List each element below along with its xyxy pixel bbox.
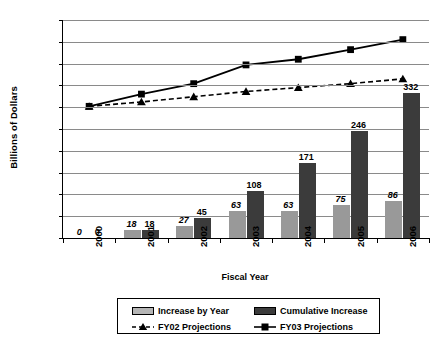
marker-square xyxy=(295,56,302,63)
bar-value-label: 171 xyxy=(292,152,321,162)
bar-cumulative-increase xyxy=(403,93,420,238)
bar-value-label: 246 xyxy=(344,120,373,130)
bar-value-label: 108 xyxy=(240,180,269,190)
y-gridline xyxy=(63,20,429,21)
x-tick-label: 2003 xyxy=(250,226,261,247)
x-tick-label: 2004 xyxy=(302,226,313,247)
y-axis-title: Billions of Dollars xyxy=(8,68,19,188)
bar-value-label: 86 xyxy=(378,190,407,200)
marker-square xyxy=(138,91,145,98)
y-tick-mark xyxy=(59,173,63,174)
x-tick-mark xyxy=(63,238,64,243)
marker-triangle xyxy=(398,75,407,83)
y-tick-mark xyxy=(59,151,63,152)
bar-value-label: 18 xyxy=(135,219,164,229)
legend-swatch-light-bar xyxy=(132,307,154,315)
y-gridline xyxy=(63,107,429,108)
bar-increase-by-year xyxy=(229,211,246,238)
bar-value-label: 45 xyxy=(187,207,216,217)
legend-item-fy03-projections: FY03 Projections xyxy=(254,318,353,336)
legend-item-fy02-projections: FY02 Projections xyxy=(132,318,254,336)
x-tick-mark xyxy=(115,238,116,243)
x-tick-mark xyxy=(324,238,325,243)
bar-value-label: 0 xyxy=(83,227,112,237)
y-gridline xyxy=(63,129,429,130)
bar-increase-by-year xyxy=(176,226,193,238)
bar-increase-by-year xyxy=(281,211,298,238)
legend-label-fy03-projections: FY03 Projections xyxy=(280,322,353,332)
y-gridline xyxy=(63,85,429,86)
x-tick-mark xyxy=(220,238,221,243)
y-gridline xyxy=(63,42,429,43)
x-axis-title: Fiscal Year xyxy=(62,272,428,282)
marker-square xyxy=(243,62,250,69)
y-tick-mark xyxy=(59,85,63,86)
chart-legend: Increase by Year Cumulative Increase FY0… xyxy=(117,298,380,334)
y-gridline xyxy=(63,151,429,152)
y-tick-mark xyxy=(59,194,63,195)
x-tick-mark xyxy=(168,238,169,243)
bar-value-label: 75 xyxy=(326,194,355,204)
bar-increase-by-year xyxy=(333,205,350,238)
dashed-triangle-icon xyxy=(132,322,154,332)
legend-swatch-dark-bar xyxy=(254,307,276,315)
x-tick-mark xyxy=(272,238,273,243)
legend-label-fy02-projections: FY02 Projections xyxy=(158,322,231,332)
bar-cumulative-increase xyxy=(351,131,368,238)
line-fy03-projections xyxy=(89,40,403,107)
x-tick-label: 2005 xyxy=(355,226,366,247)
y-gridline xyxy=(63,173,429,174)
x-tick-mark xyxy=(429,238,430,243)
y-tick-mark xyxy=(59,20,63,21)
bar-value-label: 63 xyxy=(274,200,303,210)
bar-value-label: 63 xyxy=(222,200,251,210)
y-tick-mark xyxy=(59,107,63,108)
legend-label-cumulative-increase: Cumulative Increase xyxy=(280,306,368,316)
x-tick-mark xyxy=(377,238,378,243)
y-tick-mark xyxy=(59,64,63,65)
x-tick-label: 2002 xyxy=(198,226,209,247)
y-gridline xyxy=(63,64,429,65)
y-tick-mark xyxy=(59,129,63,130)
chart-figure: Billions of Dollars Fiscal Year Increase… xyxy=(0,0,443,347)
bar-increase-by-year xyxy=(124,230,141,238)
solid-square-icon xyxy=(254,322,276,332)
y-tick-mark xyxy=(59,216,63,217)
y-tick-mark xyxy=(59,42,63,43)
bar-value-label: 332 xyxy=(396,82,425,92)
x-tick-label: 2006 xyxy=(407,226,418,247)
legend-label-increase-by-year: Increase by Year xyxy=(158,306,229,316)
bar-increase-by-year xyxy=(385,201,402,238)
marker-square xyxy=(347,46,354,53)
